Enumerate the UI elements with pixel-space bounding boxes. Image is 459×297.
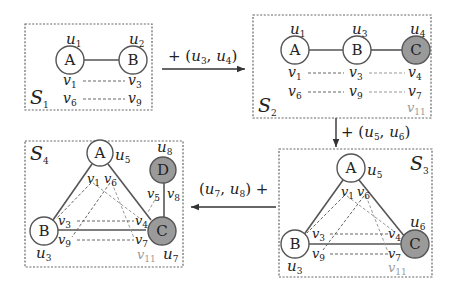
- label-v8: v8: [167, 186, 180, 203]
- label-v1: v1: [288, 64, 302, 82]
- node-a-letter: A: [289, 41, 301, 59]
- transition-2-label: + (u5, u6): [341, 123, 410, 142]
- label-u3: u3: [287, 257, 303, 276]
- label-u4: u4: [410, 20, 426, 39]
- node-a-letter: A: [345, 159, 357, 177]
- label-u3: u3: [36, 244, 52, 263]
- label-v3: v3: [128, 72, 142, 90]
- node-c: C: [148, 217, 176, 245]
- label-v4: v4: [388, 226, 401, 243]
- incremental-graph-diagram: A B u1 u2 v1 v3 v6 v9 S1 + (u3, u4) A B: [0, 0, 459, 297]
- label-v1: v1: [87, 171, 100, 188]
- edge-a-c: [108, 164, 151, 220]
- label-v4: v4: [408, 64, 422, 82]
- node-c-letter: C: [156, 222, 167, 240]
- label-u7: u7: [163, 245, 179, 264]
- label-v4: v4: [135, 213, 148, 230]
- label-v11: v11: [407, 100, 426, 117]
- label-u3: u3: [352, 20, 368, 39]
- label-u1: u1: [290, 20, 305, 39]
- label-v6: v6: [357, 184, 370, 201]
- label-v6: v6: [63, 90, 77, 108]
- transition-3-label: (u7, u8) +: [199, 180, 268, 199]
- node-b-letter: B: [351, 41, 362, 59]
- label-v3: v3: [312, 226, 325, 243]
- label-v1: v1: [63, 72, 77, 90]
- node-b: B: [119, 46, 147, 74]
- label-v3: v3: [58, 213, 71, 230]
- panel-s1-title: S1: [30, 86, 49, 110]
- panel-s2: A B C u1 u3 u4 v1 v3 v4 v6 v9 v7 v11 S2: [253, 15, 431, 118]
- panel-s4-title: S4: [30, 142, 49, 166]
- node-c-new: C: [402, 36, 430, 64]
- panel-s4: A B C D u5 u3 u7 u8 v1 v6 v5 v8 v3 v4 v9…: [25, 138, 183, 267]
- node-b-letter: B: [127, 51, 138, 69]
- transition-add-u7-u8: (u7, u8) +: [191, 180, 276, 207]
- label-v9: v9: [58, 232, 71, 249]
- node-a: A: [281, 36, 309, 64]
- label-v9: v9: [349, 83, 363, 101]
- node-a: A: [87, 140, 113, 166]
- label-v6: v6: [288, 83, 302, 101]
- label-v9: v9: [128, 90, 142, 108]
- label-v5: v5: [147, 186, 160, 203]
- node-c-letter: C: [410, 41, 421, 59]
- node-c-letter: C: [409, 235, 420, 253]
- dashed-v6-v9: [72, 183, 110, 237]
- node-a: A: [56, 46, 84, 74]
- node-b-letter: B: [289, 235, 300, 253]
- label-u2: u2: [129, 30, 144, 49]
- label-v7: v7: [408, 83, 422, 101]
- label-v11: v11: [137, 247, 156, 264]
- dashed-v6-v9: [323, 196, 364, 250]
- panel-s3-title: S3: [410, 152, 429, 176]
- panel-s3: A B C u5 u3 u6 v1 v6 v3 v4 v9 v7 v11 S3: [279, 149, 432, 277]
- node-a-letter: A: [64, 51, 76, 69]
- label-u5: u5: [367, 161, 383, 180]
- panel-s2-title: S2: [258, 94, 277, 118]
- panel-s2-border: [253, 15, 431, 118]
- edge-a-c: [359, 180, 405, 237]
- label-u6: u6: [410, 213, 426, 232]
- node-d-new: D: [150, 157, 176, 183]
- transition-add-u3-u4: + (u3, u4): [162, 47, 245, 69]
- label-v3: v3: [349, 64, 363, 82]
- transition-add-u5-u6: + (u5, u6): [336, 118, 410, 147]
- edge-a-b: [303, 180, 343, 236]
- label-u1: u1: [66, 30, 81, 49]
- node-c-new: C: [401, 230, 429, 258]
- node-b: B: [30, 217, 58, 245]
- node-a-letter: A: [94, 144, 106, 162]
- node-b: B: [281, 230, 309, 258]
- label-v9: v9: [312, 246, 325, 263]
- node-b: B: [343, 36, 371, 64]
- label-u5: u5: [115, 146, 131, 165]
- transition-1-label: + (u3, u4): [168, 47, 237, 66]
- panel-s1: A B u1 u2 v1 v3 v6 v9 S1: [25, 24, 152, 110]
- node-a: A: [337, 154, 365, 182]
- node-b-letter: B: [38, 222, 49, 240]
- label-v1: v1: [341, 184, 354, 201]
- node-d-letter: D: [157, 161, 169, 179]
